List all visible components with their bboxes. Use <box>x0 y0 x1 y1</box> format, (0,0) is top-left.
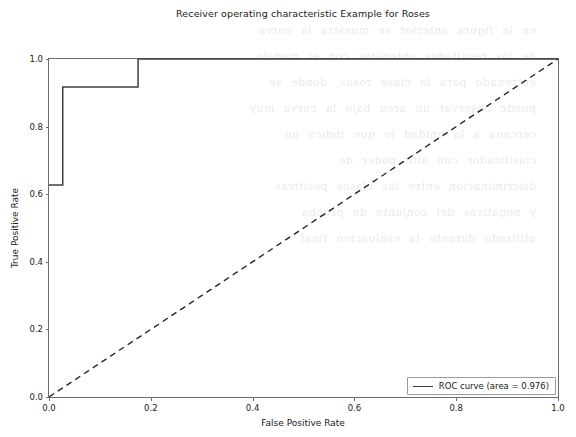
roc-curve-swatch-icon <box>413 386 433 387</box>
x-tick-label: 1.0 <box>538 403 576 413</box>
y-tick-label: 0.2 <box>3 324 43 334</box>
x-tick-mark <box>354 397 355 401</box>
x-tick-mark <box>558 397 559 401</box>
y-tick-label: 1.0 <box>3 54 43 64</box>
y-tick-mark <box>46 329 50 330</box>
y-tick-label: 0.0 <box>3 392 43 402</box>
y-tick-mark <box>46 194 50 195</box>
x-tick-mark <box>456 397 457 401</box>
x-tick-label: 0.2 <box>131 403 171 413</box>
chart-figure: en la figura anterior se muestra la curv… <box>0 0 576 437</box>
x-tick-mark <box>49 397 50 401</box>
x-tick-label: 0.8 <box>436 403 476 413</box>
chance-diagonal-line <box>49 59 558 397</box>
y-tick-label: 0.4 <box>3 257 43 267</box>
x-tick-label: 0.4 <box>233 403 273 413</box>
y-axis-label: True Positive Rate <box>10 188 20 268</box>
y-tick-label: 0.6 <box>3 189 43 199</box>
plot-canvas <box>49 59 558 397</box>
y-tick-label: 0.8 <box>3 122 43 132</box>
y-tick-mark <box>46 59 50 60</box>
y-tick-mark <box>46 262 50 263</box>
x-tick-label: 0.0 <box>29 403 69 413</box>
legend-label-roc: ROC curve (area = 0.976) <box>439 381 549 391</box>
y-tick-mark <box>46 127 50 128</box>
plot-axes: 0.00.20.40.60.81.0 0.00.20.40.60.81.0 Tr… <box>48 58 559 398</box>
roc-curve-line <box>49 59 558 185</box>
x-axis-label: False Positive Rate <box>261 418 345 428</box>
x-tick-mark <box>253 397 254 401</box>
x-tick-label: 0.6 <box>334 403 374 413</box>
chart-legend: ROC curve (area = 0.976) <box>407 377 556 395</box>
x-tick-mark <box>151 397 152 401</box>
chart-title: Receiver operating characteristic Exampl… <box>48 8 558 19</box>
